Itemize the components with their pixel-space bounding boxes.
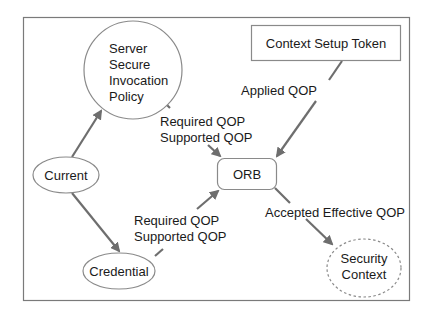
node-server-line-2: Secure [109,57,150,72]
node-server-line-4: Policy [109,89,144,104]
node-orb[interactable]: ORB [218,159,277,190]
node-server-secure-invocation-policy[interactable]: Server Secure Invocation Policy [84,21,182,119]
node-current[interactable]: Current [33,157,99,193]
edge-label-applied-qop: Applied QOP [241,83,317,98]
node-server-line-1: Server [109,41,148,56]
node-credential[interactable]: Credential [83,253,155,289]
edge-label-accepted-effective-qop: Accepted Effective QOP [265,205,405,220]
edge-label-credential-required-qop: Required QOP [134,213,219,228]
edge-label-server-required-qop: Required QOP [160,114,245,129]
edge-label-server-supported-qop: Supported QOP [160,130,253,145]
node-server-line-3: Invocation [109,73,168,88]
node-current-label: Current [44,168,88,183]
node-credential-label: Credential [89,264,148,279]
node-security-context[interactable]: Security Context [327,239,401,297]
node-security-context-line-2: Context [342,267,387,282]
node-context-setup-token-label: Context Setup Token [266,36,386,51]
node-orb-label: ORB [233,167,261,182]
edge-label-credential-supported-qop: Supported QOP [134,229,227,244]
node-context-setup-token[interactable]: Context Setup Token [252,26,401,61]
node-security-context-line-1: Security [341,251,388,266]
diagram-canvas: Server Secure Invocation Policy Context … [0,0,432,316]
